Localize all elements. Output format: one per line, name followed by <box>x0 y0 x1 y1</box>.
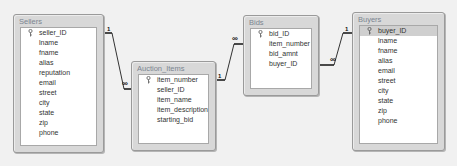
table-auction-items[interactable]: Auction_Items item_number seller_ID item… <box>131 61 216 151</box>
field-email[interactable]: email <box>21 78 96 88</box>
field-alias[interactable]: alias <box>21 58 96 68</box>
field-state[interactable]: state <box>360 96 437 106</box>
field-alias[interactable]: alias <box>360 56 437 66</box>
field-buyer-id[interactable]: buyer_ID <box>360 26 437 36</box>
field-state[interactable]: state <box>21 108 96 118</box>
cardinality-many-label: ∞ <box>330 57 336 63</box>
table-buyers[interactable]: Buyers buyer_ID lname fname alias email … <box>352 12 445 151</box>
field-city[interactable]: city <box>21 98 96 108</box>
field-street[interactable]: street <box>21 88 96 98</box>
cardinality-one-label: 1 <box>218 73 221 79</box>
field-zip[interactable]: zip <box>360 106 437 116</box>
field-fname[interactable]: fname <box>21 48 96 58</box>
field-street[interactable]: street <box>360 76 437 86</box>
field-seller-id[interactable]: seller_ID <box>21 28 96 38</box>
table-title: Bids <box>249 18 264 27</box>
field-city[interactable]: city <box>360 86 437 96</box>
field-list: buyer_ID lname fname alias email street … <box>359 25 438 144</box>
field-bid-id[interactable]: bid_ID <box>251 29 311 39</box>
table-sellers[interactable]: Sellers seller_ID lname fname alias repu… <box>13 14 104 153</box>
field-phone[interactable]: phone <box>360 116 437 126</box>
field-list: item_number seller_ID item_name item_des… <box>138 74 209 144</box>
field-list: seller_ID lname fname alias reputation e… <box>20 27 97 146</box>
cardinality-one-label: 1 <box>345 26 348 32</box>
table-title: Auction_Items <box>137 64 185 73</box>
primary-key-icon <box>258 30 263 38</box>
cardinality-many-label: ∞ <box>122 81 128 87</box>
primary-key-icon <box>28 29 33 37</box>
field-lname[interactable]: lname <box>21 38 96 48</box>
table-title: Sellers <box>19 17 42 26</box>
cardinality-one-label: 1 <box>107 26 110 32</box>
field-email[interactable]: email <box>360 66 437 76</box>
field-item-name[interactable]: item_name <box>139 95 208 105</box>
field-lname[interactable]: lname <box>360 36 437 46</box>
field-reputation[interactable]: reputation <box>21 68 96 78</box>
field-zip[interactable]: zip <box>21 118 96 128</box>
field-buyer-id[interactable]: buyer_ID <box>251 59 311 69</box>
field-item-number[interactable]: item_number <box>139 75 208 85</box>
primary-key-icon <box>367 27 372 35</box>
field-fname[interactable]: fname <box>360 46 437 56</box>
field-starting-bid[interactable]: starting_bid <box>139 115 208 125</box>
primary-key-icon <box>146 76 151 84</box>
table-bids[interactable]: Bids bid_ID item_number bid_amnt buyer_I… <box>243 15 319 96</box>
field-phone[interactable]: phone <box>21 128 96 138</box>
field-bid-amnt[interactable]: bid_amnt <box>251 49 311 59</box>
field-item-description[interactable]: item_description <box>139 105 208 115</box>
field-seller-id[interactable]: seller_ID <box>139 85 208 95</box>
field-item-number[interactable]: item_number <box>251 39 311 49</box>
cardinality-many-label: ∞ <box>232 36 238 42</box>
field-list: bid_ID item_number bid_amnt buyer_ID <box>250 28 312 89</box>
table-title: Buyers <box>358 15 381 24</box>
